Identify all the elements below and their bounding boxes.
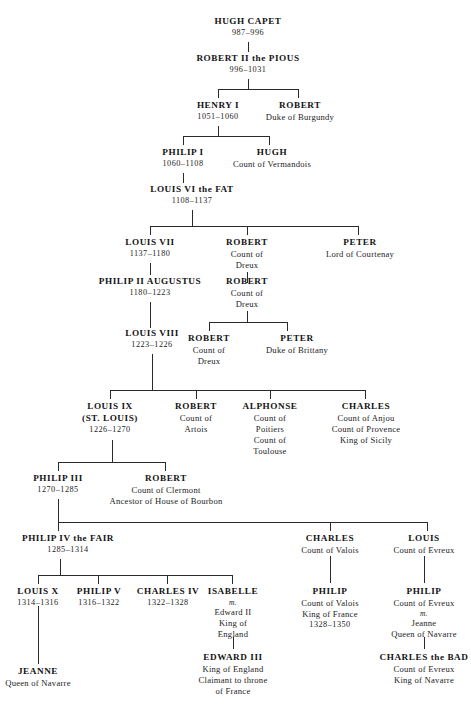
person-dates: 1180–1223 [99, 288, 201, 299]
connector-horizontal [58, 522, 428, 523]
connector-vertical [248, 42, 249, 52]
node-hugh-vermandois: HUGH Count of Vermandois [233, 147, 311, 170]
connector-horizontal [150, 226, 359, 227]
person-name: PHILIP [301, 586, 359, 598]
node-louis-evreux: LOUIS Count of Evreux [393, 533, 454, 556]
person-title: Artois [175, 424, 217, 435]
person-title: Count of Vermandois [233, 159, 311, 170]
connector-vertical [196, 390, 197, 399]
person-title: Claimant to throne [199, 675, 268, 686]
person-name: ROBERT [226, 276, 268, 288]
person-title: Count of Evreux [393, 545, 454, 556]
node-louis-ix: LOUIS IX (ST. LOUIS) 1226–1270 [82, 401, 138, 435]
person-name: ROBERT II the PIOUS [196, 53, 299, 65]
node-philip-evreux: PHILIP Count of Evreux m. Jeanne Queen o… [391, 586, 457, 640]
connector-vertical [365, 390, 366, 399]
person-name: PETER [326, 237, 394, 249]
person-name: CHARLES IV [137, 586, 199, 598]
marriage-marker: m. [391, 609, 457, 619]
person-title: Count of [226, 249, 268, 260]
person-dates: 1322–1328 [137, 598, 199, 609]
person-name-alt: (ST. LOUIS) [82, 413, 138, 425]
connector-vertical [424, 556, 425, 583]
person-name: PHILIP [391, 586, 457, 598]
connector-vertical [150, 226, 151, 235]
person-name: ROBERT [226, 237, 268, 249]
node-robert-dreux-1: ROBERT Count of Dreux [226, 237, 268, 271]
connector-vertical [183, 173, 184, 183]
connector-vertical [233, 637, 234, 649]
connector-vertical [60, 559, 61, 575]
person-title: Dreux [188, 356, 230, 367]
person-dates: 1060–1108 [162, 159, 203, 170]
person-name: PHILIP III [33, 473, 83, 485]
node-philip-i: PHILIP I 1060–1108 [162, 147, 203, 169]
person-name: ROBERT [266, 100, 334, 112]
node-edward-iii: EDWARD III King of England Claimant to t… [199, 652, 268, 697]
person-name: HUGH CAPET [214, 16, 281, 28]
connector-vertical [269, 136, 270, 145]
connector-vertical [38, 575, 39, 584]
connector-horizontal [38, 575, 233, 576]
person-dates: 1285–1314 [22, 545, 114, 556]
person-name: HENRY I [197, 100, 239, 112]
node-robert-burgundy: ROBERT Duke of Burgundy [266, 100, 334, 123]
node-louis-viii: LOUIS VIII 1223–1226 [125, 328, 179, 350]
person-dates: 1051–1060 [197, 112, 239, 123]
person-title: of France [199, 686, 268, 697]
person-title: Count of Valois [301, 545, 359, 556]
person-name: LOUIS X [17, 586, 58, 598]
person-title: King of [208, 618, 258, 629]
connector-vertical [232, 575, 233, 584]
node-charles-bad: CHARLES the BAD Count of Evreux King of … [380, 652, 469, 686]
node-charles-anjou: CHARLES Count of Anjou Count of Provence… [332, 401, 401, 446]
node-charles-valois: CHARLES Count of Valois [301, 533, 359, 556]
connector-vertical [358, 226, 359, 235]
connector-vertical [270, 390, 271, 399]
connector-vertical [247, 226, 248, 235]
person-name: LOUIS [393, 533, 454, 545]
person-title: King of Sicily [332, 435, 401, 446]
connector-vertical [287, 322, 288, 331]
marriage-marker: m. [208, 598, 258, 608]
connector-vertical [58, 499, 59, 522]
connector-vertical [183, 136, 184, 145]
connector-vertical [298, 89, 299, 98]
node-louis-vi: LOUIS VI the FAT 1108–1137 [150, 184, 234, 206]
person-title: Poitiers [243, 424, 298, 435]
node-robert-dreux-2: ROBERT Count of Dreux [226, 276, 268, 310]
person-title: Count of [243, 413, 298, 424]
node-philip-iii: PHILIP III 1270–1285 [33, 473, 83, 495]
person-dates: 1226–1270 [82, 425, 138, 436]
person-name: ALPHONSE [243, 401, 298, 413]
person-title: King of England [199, 664, 268, 675]
connector-vertical [110, 390, 111, 399]
person-title: Count of [243, 435, 298, 446]
person-name: ROBERT [175, 401, 217, 413]
person-title: King of France [301, 609, 359, 620]
node-robert-dreux-3: ROBERT Count of Dreux [188, 333, 230, 367]
person-title: Duke of Brittany [266, 345, 328, 356]
person-name: EDWARD III [199, 652, 268, 664]
person-name: PHILIP V [77, 586, 121, 598]
person-dates: 1316–1322 [77, 598, 121, 609]
node-robert-clermont: ROBERT Count of Clermont Ancestor of Hou… [110, 473, 223, 507]
connector-vertical [427, 522, 428, 531]
connector-vertical [150, 302, 151, 328]
person-name: LOUIS VIII [125, 328, 179, 340]
person-title: Count of Clermont [110, 485, 223, 496]
connector-horizontal [58, 462, 166, 463]
person-dates: 1108–1137 [150, 196, 234, 207]
node-charles-iv: CHARLES IV 1322–1328 [137, 586, 199, 608]
person-name: PETER [266, 333, 328, 345]
connector-vertical [167, 575, 168, 584]
connector-vertical [150, 263, 151, 275]
connector-horizontal [183, 136, 270, 137]
person-title: Count of [226, 288, 268, 299]
person-title: Count of Evreux [380, 664, 469, 675]
connector-vertical [424, 637, 425, 649]
person-title: Jeanne [391, 618, 457, 629]
node-jeanne-navarre: JEANNE Queen of Navarre [5, 666, 71, 689]
node-robert-ii: ROBERT II the PIOUS 996–1031 [196, 53, 299, 75]
node-hugh-capet: HUGH CAPET 987–996 [214, 16, 281, 38]
